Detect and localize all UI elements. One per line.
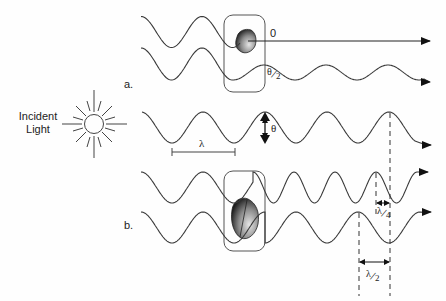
incident-label-line1: Incident (8, 110, 68, 123)
diagram-canvas (0, 0, 446, 301)
lambda-half-label: λ / 2 (366, 268, 384, 286)
theta-label: θ (271, 122, 276, 134)
panel-a-particle-box (224, 15, 265, 92)
lambda-half-den: 2 (375, 273, 380, 283)
wave-a-lower (141, 48, 430, 82)
wave-b-upper (141, 172, 428, 203)
incident-label-line2: Light (8, 123, 68, 136)
wavelength-bar (172, 148, 235, 156)
panel-a-label: a. (124, 78, 133, 91)
lambda-quarter-den: 4 (386, 210, 391, 220)
light-scattering-diagram: Incident Light a. b. 0 θ λ θ / 2 λ / 4 λ… (0, 0, 446, 301)
panel-b-particle (231, 198, 258, 239)
wave-reference (142, 112, 431, 145)
lambda-label: λ (199, 137, 204, 149)
sun-icon (62, 90, 127, 158)
wave-a-upper (141, 17, 240, 48)
theta-half-den: 2 (276, 71, 281, 81)
zero-phase-label: 0 (270, 27, 276, 40)
lambda-quarter-label: λ / 4 (377, 205, 395, 223)
incident-light-label: Incident Light (8, 110, 68, 136)
theta-half-label: θ / 2 (267, 66, 285, 84)
panel-b-label: b. (124, 219, 133, 232)
